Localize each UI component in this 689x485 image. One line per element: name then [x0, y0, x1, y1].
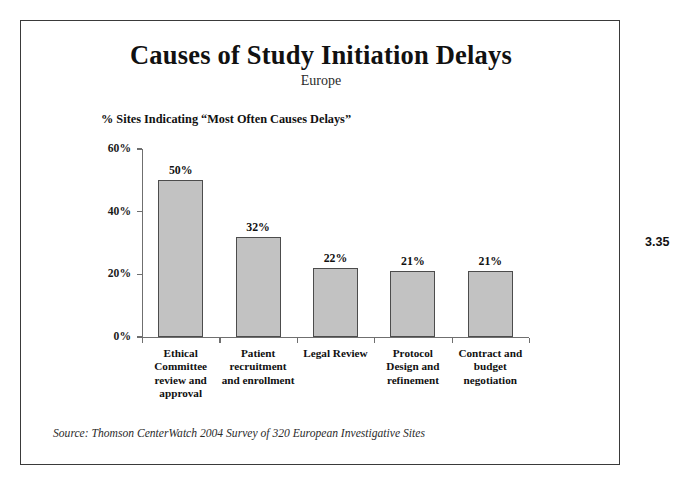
category-label-line: Committee	[154, 360, 207, 372]
y-axis-tick-label: 0%	[87, 330, 131, 343]
category-label-line: Patient	[241, 347, 275, 359]
x-axis-tick	[374, 338, 375, 343]
bar-value-label: 21%	[460, 254, 520, 269]
category-label-line: Design and	[386, 360, 439, 372]
x-axis-category-label: ProtocolDesign andrefinement	[374, 347, 451, 387]
x-axis-tick	[529, 338, 530, 343]
y-axis-tick-label: 60%	[87, 142, 131, 155]
slide-frame: Causes of Study Initiation Delays Europe…	[20, 20, 620, 465]
x-axis-tick	[219, 338, 220, 343]
category-label-line: negotiation	[464, 374, 517, 386]
x-axis-category-label: EthicalCommitteereview andapproval	[142, 347, 219, 401]
category-label-line: Protocol	[393, 347, 433, 359]
category-label-line: Legal Review	[303, 347, 367, 359]
y-axis-line	[142, 149, 143, 338]
x-axis-tick	[297, 338, 298, 343]
bar-value-label: 22%	[306, 251, 366, 266]
bar	[390, 271, 435, 337]
y-axis-tick	[137, 148, 142, 149]
x-axis-line	[142, 337, 529, 338]
bar	[158, 180, 203, 337]
x-axis-category-label: Contract andbudgetnegotiation	[452, 347, 529, 387]
bar	[236, 237, 281, 337]
x-axis-category-label: Patientrecruitmentand enrollment	[219, 347, 296, 387]
y-axis-tick-label: 20%	[87, 267, 131, 280]
x-axis-tick	[142, 338, 143, 343]
page-number: 3.35	[645, 235, 669, 249]
bar-value-label: 32%	[228, 220, 288, 235]
category-label-line: Ethical	[164, 347, 198, 359]
bar	[313, 268, 358, 337]
category-label-line: budget	[474, 360, 507, 372]
category-label-line: Contract and	[458, 347, 522, 359]
category-label-line: review and	[155, 374, 207, 386]
category-label-line: refinement	[387, 374, 439, 386]
bar-chart-plot: 0%20%40%60% 50%32%22%21%21% EthicalCommi…	[21, 21, 621, 466]
category-label-line: recruitment	[230, 360, 287, 372]
y-axis-tick-label: 40%	[87, 205, 131, 218]
bar	[468, 271, 513, 337]
bar-value-label: 21%	[383, 254, 443, 269]
x-axis-category-label: Legal Review	[297, 347, 374, 360]
source-note: Source: Thomson CenterWatch 2004 Survey …	[53, 427, 425, 440]
x-axis-tick	[452, 338, 453, 343]
y-axis-tick	[137, 211, 142, 212]
category-label-line: approval	[159, 387, 202, 399]
y-axis-tick	[137, 274, 142, 275]
bar-value-label: 50%	[151, 163, 211, 178]
category-label-line: and enrollment	[222, 374, 295, 386]
